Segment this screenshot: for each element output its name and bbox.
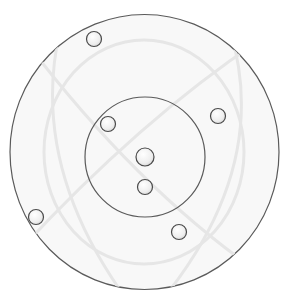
node-3 (101, 117, 116, 132)
node-2 (211, 109, 226, 124)
node-4 (138, 180, 153, 195)
node-5 (29, 210, 44, 225)
node-1 (87, 32, 102, 47)
concentric-circle-diagram (0, 0, 286, 304)
node-center (136, 148, 154, 166)
node-6 (172, 225, 187, 240)
